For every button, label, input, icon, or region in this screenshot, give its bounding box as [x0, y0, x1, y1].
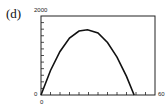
data-curve	[41, 30, 134, 95]
plot-area	[0, 0, 165, 112]
